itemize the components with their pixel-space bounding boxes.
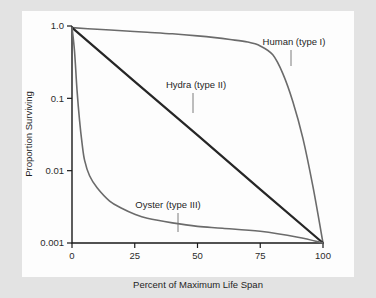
y-axis-ticks: 1.00.10.010.001 <box>40 20 72 248</box>
y-axis-title: Proportion Surviving <box>23 91 34 177</box>
x-axis-title: Percent of Maximum Life Span <box>133 279 263 290</box>
data-series-group <box>72 28 323 243</box>
chart-canvas: 1.00.10.010.001 0255075100 Human (type I… <box>0 0 376 298</box>
series-label-2: Oyster (type III) <box>135 199 200 210</box>
x-tick-label: 25 <box>129 250 140 261</box>
y-tick-label: 0.01 <box>46 165 65 176</box>
series-curve-1 <box>72 28 323 243</box>
series-label-1: Hydra (type II) <box>166 79 226 90</box>
y-tick-label: 0.001 <box>40 237 64 248</box>
x-tick-label: 50 <box>192 250 203 261</box>
series-annotations-group: Human (type I)Hydra (type II)Oyster (typ… <box>135 36 325 232</box>
y-tick-label: 0.1 <box>51 93 64 104</box>
survivorship-curve-figure: 1.00.10.010.001 0255075100 Human (type I… <box>0 0 376 298</box>
x-tick-label: 75 <box>255 250 266 261</box>
x-tick-label: 0 <box>69 250 74 261</box>
x-axis-ticks: 0255075100 <box>69 243 331 261</box>
x-tick-label: 100 <box>315 250 331 261</box>
series-label-0: Human (type I) <box>263 36 326 47</box>
y-tick-label: 1.0 <box>51 20 64 31</box>
